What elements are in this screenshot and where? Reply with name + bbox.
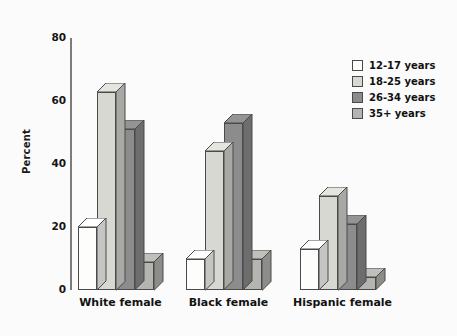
legend-item-1: 12-17 years [352, 58, 452, 73]
bar-side-face [224, 142, 233, 290]
bar-side-face [338, 187, 347, 291]
legend-label: 18-25 years [369, 76, 435, 87]
legend-swatch-icon [352, 92, 363, 103]
bar-top-face [78, 218, 106, 227]
legend-swatch-icon [352, 76, 363, 87]
bar-chart: 806040200 Percent 12-17 years18-25 years… [0, 0, 457, 336]
y-tick-20: 20 [38, 220, 66, 232]
legend-swatch-icon [352, 60, 363, 71]
bar-side-face [357, 215, 366, 290]
category-label-2: Black female [168, 296, 289, 309]
legend-label: 26-34 years [369, 92, 435, 103]
legend-swatch-icon [352, 108, 363, 119]
bar-1-1 [78, 227, 97, 290]
y-tick-40: 40 [38, 157, 66, 169]
bar-top-face [319, 187, 347, 196]
category-label-3: Hispanic female [282, 296, 403, 309]
bar-side-face [135, 120, 144, 290]
bar-side-face [116, 83, 125, 290]
legend-item-4: 35+ years [352, 106, 452, 121]
bar-group-2 [186, 30, 271, 290]
legend-label: 35+ years [369, 108, 426, 119]
bar-top-face [224, 114, 252, 123]
bar-top-face [97, 83, 125, 92]
bar-3-1 [300, 249, 319, 290]
bar-top-face [205, 142, 233, 151]
legend-item-2: 18-25 years [352, 74, 452, 89]
legend-label: 12-17 years [369, 60, 435, 71]
bar-top-face [300, 240, 328, 249]
category-label-1: White female [60, 296, 181, 309]
y-tick-60: 60 [38, 94, 66, 106]
bar-side-face [97, 218, 106, 290]
bar-2-1 [186, 259, 205, 291]
bar-front-face [78, 227, 97, 290]
y-tick-0: 0 [38, 283, 66, 295]
y-tick-80: 80 [38, 31, 66, 43]
y-axis-tick-labels: 806040200 [30, 0, 66, 336]
bar-front-face [300, 249, 319, 290]
chart-legend: 12-17 years18-25 years26-34 years35+ yea… [352, 58, 452, 122]
y-axis-title: Percent [21, 117, 32, 187]
bar-group-1 [78, 30, 163, 290]
bar-front-face [186, 259, 205, 291]
bar-top-face [186, 250, 214, 259]
legend-item-3: 26-34 years [352, 90, 452, 105]
bar-side-face [243, 114, 252, 290]
